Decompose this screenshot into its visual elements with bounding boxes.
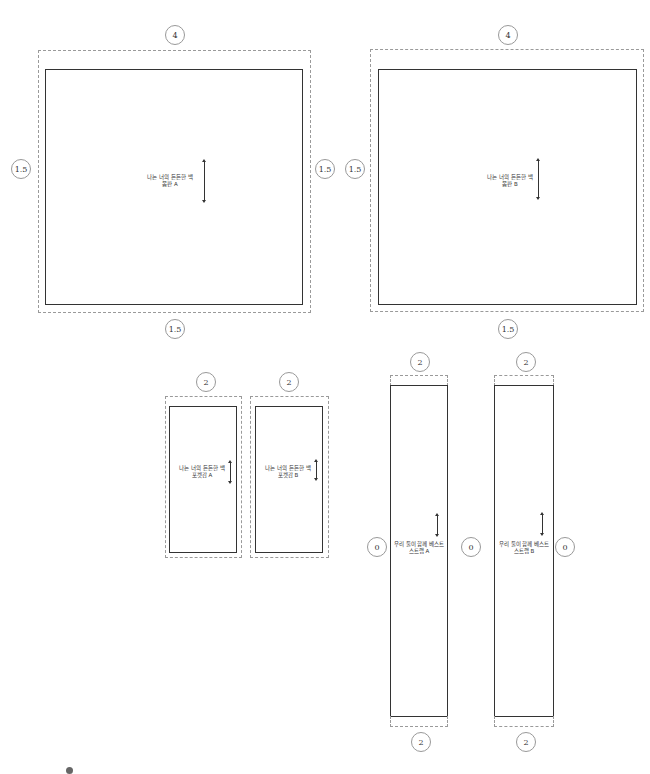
seam-value: 2 xyxy=(523,358,528,367)
seam-allowance-badge-bottom: 1.5 xyxy=(498,319,518,339)
strap-a-label: 우리 둘이 함께 베스트 스트랩 A xyxy=(392,541,446,555)
seam-allowance-badge-bottom: 2 xyxy=(516,732,536,752)
piece-name: 나는 너의 든든한 백 xyxy=(140,174,200,181)
seam-value: 1.5 xyxy=(349,165,362,174)
piece-id: 포켓감 B xyxy=(259,472,317,479)
seam-allowance-badge-bottom: 1.5 xyxy=(165,319,185,339)
seam-value: 2 xyxy=(418,738,423,747)
piece-id: 포켓감 A xyxy=(173,472,231,479)
piece-name: 우리 둘이 함께 베스트 xyxy=(496,541,552,548)
seam-value: 2 xyxy=(286,378,291,387)
seam-allowance-badge-top: 2 xyxy=(279,372,299,392)
grainline-arrow-icon xyxy=(316,461,317,479)
seam-value: 4 xyxy=(505,31,510,40)
piece-id: 스트랩 B xyxy=(496,548,552,555)
seam-allowance-badge-top: 2 xyxy=(196,372,216,392)
grainline-arrow-icon xyxy=(542,514,543,534)
seam-allowance-badge-top: 4 xyxy=(165,25,185,45)
pocket-b-pattern-piece xyxy=(255,406,323,553)
grainline-arrow-icon xyxy=(437,515,438,535)
piece-name: 나는 너의 든든한 백 xyxy=(259,465,317,472)
seam-value: 0 xyxy=(374,543,379,552)
seam-allowance-badge-left: 1.5 xyxy=(345,159,365,179)
seam-allowance-badge-right: 0 xyxy=(555,537,575,557)
body-b-label: 나는 너의 든든한 백 몸판 B xyxy=(480,174,540,188)
seam-allowance-badge-top: 4 xyxy=(498,25,518,45)
piece-name: 나는 너의 든든한 백 xyxy=(480,174,540,181)
seam-value: 0 xyxy=(468,543,473,552)
seam-value: 1.5 xyxy=(502,325,515,334)
strap-b-label: 우리 둘이 함께 베스트 스트랩 B xyxy=(496,541,552,555)
seam-allowance-badge-left: 1.5 xyxy=(11,159,31,179)
seam-value: 1.5 xyxy=(15,165,28,174)
seam-allowance-badge-left: 0 xyxy=(367,537,387,557)
seam-allowance-badge-top: 2 xyxy=(410,352,430,372)
pocket-a-label: 나는 너의 든든한 백 포켓감 A xyxy=(173,465,231,479)
seam-allowance-badge-right: 1.5 xyxy=(315,159,335,179)
pocket-b-label: 나는 너의 든든한 백 포켓감 B xyxy=(259,465,317,479)
seam-value: 1.5 xyxy=(319,165,332,174)
piece-name: 우리 둘이 함께 베스트 xyxy=(392,541,446,548)
strap-b-seam-bottom xyxy=(494,716,554,727)
seam-value: 2 xyxy=(417,358,422,367)
seam-allowance-badge-between: 0 xyxy=(461,537,481,557)
piece-id: 스트랩 A xyxy=(392,548,446,555)
seam-value: 0 xyxy=(562,543,567,552)
seam-allowance-badge-top: 2 xyxy=(516,352,536,372)
pocket-a-pattern-piece xyxy=(169,406,237,553)
seam-value: 2 xyxy=(203,378,208,387)
seam-allowance-badge-bottom: 2 xyxy=(411,732,431,752)
piece-id: 몸판 A xyxy=(140,181,200,188)
grainline-arrow-icon xyxy=(230,462,231,482)
piece-name: 나는 너의 든든한 백 xyxy=(173,465,231,472)
footnote xyxy=(66,766,77,774)
piece-id: 몸판 B xyxy=(480,181,540,188)
grainline-arrow-icon xyxy=(538,160,539,198)
grainline-arrow-icon xyxy=(204,161,205,201)
seam-value: 4 xyxy=(172,31,177,40)
strap-a-seam-bottom xyxy=(390,716,448,727)
seam-value: 2 xyxy=(523,738,528,747)
bullet-icon xyxy=(66,767,73,774)
seam-value: 1.5 xyxy=(169,325,182,334)
body-a-label: 나는 너의 든든한 백 몸판 A xyxy=(140,174,200,188)
